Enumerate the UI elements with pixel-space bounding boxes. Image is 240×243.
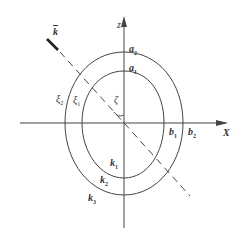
label-xi1: ξ1 <box>73 95 80 109</box>
k-direction-line <box>60 52 190 196</box>
label-k1: k1 <box>110 158 118 172</box>
label-xi2: ξ2 <box>56 94 63 108</box>
label-k3: k3 <box>88 193 96 207</box>
angle-arc <box>114 112 124 116</box>
label-b2: b2 <box>188 127 196 141</box>
z-axis-label: z <box>117 20 121 30</box>
wave-surface-diagram <box>0 0 240 243</box>
label-b1: b1 <box>169 127 177 141</box>
k-vector-label: k <box>53 27 58 37</box>
k-vector-arrow-icon <box>47 39 58 50</box>
label-k2: k2 <box>100 175 108 189</box>
label-a1: a1 <box>129 63 137 77</box>
x-axis-label: X <box>223 128 230 138</box>
z-axis-arrow-icon <box>121 16 127 27</box>
inner-curve <box>82 71 164 178</box>
x-axis-arrow-icon <box>216 120 228 126</box>
angle-zeta-label: ζ <box>114 95 118 105</box>
label-a2: a2 <box>129 44 137 58</box>
